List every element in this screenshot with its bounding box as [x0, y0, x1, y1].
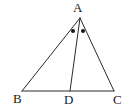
- segment-AC: [80, 18, 114, 91]
- geometry-figure: A B D C: [0, 0, 133, 110]
- vertex-label-d: D: [64, 93, 73, 106]
- angle-marker-dot-BAD: [71, 29, 75, 33]
- vertex-label-b: B: [13, 92, 22, 105]
- angle-marker-dot-DAC: [81, 29, 85, 33]
- vertex-label-c: C: [113, 93, 122, 106]
- vertex-label-a: A: [73, 1, 82, 14]
